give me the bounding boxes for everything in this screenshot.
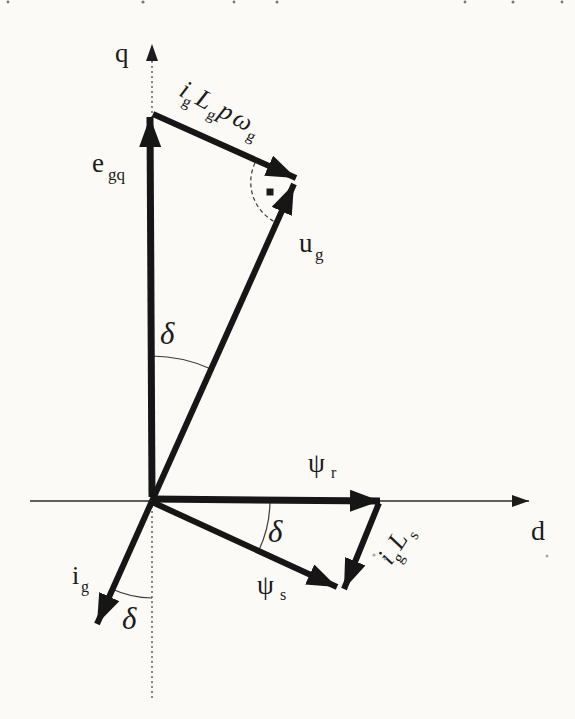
vector-psi-s [152, 502, 337, 587]
vector-ig-ls [344, 503, 379, 589]
delta-label-mid: δ [268, 514, 283, 549]
psi-r-label: ψ [308, 448, 325, 478]
vector-psi-r [152, 499, 380, 501]
d-axis-label: d [531, 515, 545, 546]
psi-s-label: ψ [257, 570, 274, 600]
e-gq-label: e [92, 148, 104, 178]
delta-arc-egq-ug [152, 356, 211, 369]
u-g-label: u [299, 228, 313, 258]
psi-r-label-subscript: r [331, 464, 337, 481]
ig-ls-label-group: i g L s [372, 519, 423, 572]
e-gq-label-subscript: gq [108, 165, 126, 184]
q-axis-label: q [115, 38, 129, 68]
i-g-label: i [72, 561, 79, 590]
delta-label-bottom: δ [122, 601, 137, 636]
phasor-diagram-page: q d e gq u g ψ r ψ s i g i g L g p ω g i [0, 0, 575, 719]
u-g-label-subscript: g [315, 245, 324, 264]
ig-lg-p-wg-label-group: i g L g p ω g [173, 75, 267, 146]
cropped-text-remnants [7, 0, 564, 3]
vector-e-gq [150, 117, 152, 497]
right-angle-dot [267, 189, 274, 196]
psi-s-label-subscript: s [280, 586, 286, 603]
delta-label-top: δ [160, 316, 175, 351]
delta-arc-ig-qaxis [112, 589, 152, 598]
i-g-label-subscript: g [81, 578, 89, 596]
phasor-diagram: q d e gq u g ψ r ψ s i g i g L g p ω g i [0, 0, 575, 719]
